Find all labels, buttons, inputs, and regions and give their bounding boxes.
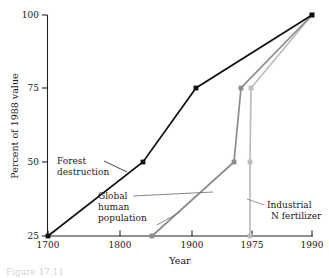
annotation-label-global-human-population-line3: population [98,213,147,223]
data-point-marker [248,160,253,165]
x-tick-label-1900: 1900 [181,240,204,250]
data-point-marker [232,160,237,165]
y-axis-title: Percent of 1988 value [9,73,20,179]
x-axis-title: Year [168,255,191,266]
annotation-label-industrial-n-fertilizer-line1: Industrial [267,200,312,210]
annotation-industrial-n-fertilizer: Industrial N fertilizer [247,199,322,221]
annotation-label-forest-destruction-line2: destruction [57,167,109,177]
annotation-label-industrial-n-fertilizer-line2: N fertilizer [271,211,322,221]
y-tick-label-75: 75 [28,83,40,93]
leader-line-global-human-population-lower [157,212,180,225]
data-point-marker [248,234,253,239]
annotation-forest-destruction: Forest destruction [57,156,127,177]
y-tick-label-100: 100 [22,10,39,20]
x-axis-ticks [48,231,312,237]
data-point-marker [150,234,155,239]
y-axis-ticks [42,15,48,236]
figure-caption: Figure 17.11 [6,267,64,277]
data-point-marker [239,86,244,91]
annotation-label-global-human-population-line1: Global [98,191,128,201]
x-tick-label-1800: 1800 [109,240,132,250]
line-chart: 100 75 50 25 1700 1800 1900 1975 1990 Ye… [0,0,329,278]
data-point-marker [249,86,254,91]
y-axis-tick-labels: 100 75 50 25 [22,10,39,241]
x-axis-tick-labels: 1700 1800 1900 1975 1990 [37,240,324,250]
data-point-marker [194,86,199,91]
data-point-marker [141,160,146,165]
annotation-label-forest-destruction-line1: Forest [57,156,86,166]
leader-line-global-human-population-upper [133,192,213,196]
y-tick-label-50: 50 [28,157,40,167]
annotation-label-global-human-population-line2: human [98,202,129,212]
data-point-marker [310,13,315,18]
x-tick-label-1700: 1700 [37,240,60,250]
figure-container: 100 75 50 25 1700 1800 1900 1975 1990 Ye… [0,0,329,278]
x-tick-label-1975: 1975 [241,240,264,250]
data-point-marker [46,234,51,239]
x-tick-label-1990: 1990 [301,240,324,250]
